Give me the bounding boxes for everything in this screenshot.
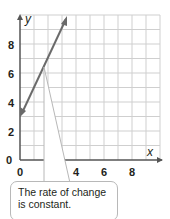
y-axis-label: y <box>24 12 32 26</box>
callout-text-line2: is constant. <box>18 198 117 210</box>
svg-text:2: 2 <box>8 126 14 138</box>
svg-text:0: 0 <box>17 166 23 178</box>
grid <box>20 15 160 160</box>
svg-text:6: 6 <box>8 68 14 80</box>
callout-box: The rate of change is constant. <box>10 181 118 219</box>
svg-text:8: 8 <box>8 39 14 51</box>
svg-text:4: 4 <box>73 166 80 178</box>
svg-text:6: 6 <box>101 166 107 178</box>
svg-text:4: 4 <box>8 97 15 109</box>
tick-labels: 8 6 4 2 0 0 2 4 6 8 <box>6 39 135 178</box>
callout-pointer <box>44 67 70 183</box>
callout-text-line1: The rate of change <box>18 186 117 198</box>
svg-text:0: 0 <box>6 154 12 166</box>
x-axis-label: x <box>146 145 154 159</box>
svg-text:8: 8 <box>129 166 135 178</box>
